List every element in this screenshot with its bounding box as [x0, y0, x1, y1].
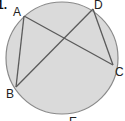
label-c: C: [115, 65, 124, 79]
circle-chords-diagram: 1. A D C B E: [0, 0, 125, 121]
label-b: B: [6, 87, 14, 101]
label-e: E: [69, 115, 77, 121]
label-a: A: [13, 5, 21, 19]
label-d: D: [94, 0, 103, 12]
problem-number: 1.: [0, 0, 7, 12]
